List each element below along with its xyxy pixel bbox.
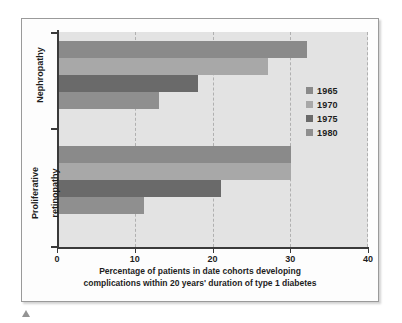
x-tick-40	[368, 247, 369, 253]
gridline-40	[367, 32, 368, 247]
x-tick-label-30: 30	[285, 254, 295, 264]
bar-nephropathy-1975	[58, 75, 198, 92]
legend-item-1965: 1965	[306, 84, 338, 97]
category-label-nephropathy: Nephropathy	[35, 30, 45, 120]
x-tick-20	[213, 247, 214, 253]
x-tick-0	[57, 247, 58, 253]
x-tick-label-40: 40	[363, 254, 373, 264]
triangle-marker-icon	[22, 310, 30, 317]
legend-label-1980: 1980	[317, 128, 338, 138]
bar-nephropathy-1970	[58, 58, 268, 75]
legend-label-1975: 1975	[317, 114, 338, 124]
legend: 1965 1970 1975 1980	[306, 84, 338, 140]
gridline-30	[290, 32, 291, 247]
category-label-retinopathy: Proliferative retinopathy	[20, 148, 60, 238]
legend-swatch-1980	[306, 129, 313, 136]
bar-retinopathy-1980	[58, 197, 144, 214]
legend-item-1975: 1975	[306, 112, 338, 125]
x-axis-caption: Percentage of patients in date cohorts d…	[30, 266, 370, 289]
x-axis-caption-line2: complications within 20 years' duration …	[30, 278, 370, 290]
legend-swatch-1970	[306, 101, 313, 108]
y-tick-top	[51, 32, 58, 34]
category-label-retinopathy-line1: Proliferative	[30, 167, 40, 219]
legend-swatch-1975	[306, 115, 313, 122]
x-tick-label-20: 20	[207, 254, 217, 264]
legend-item-1980: 1980	[306, 126, 338, 139]
bar-nephropathy-1965	[58, 41, 307, 58]
bar-retinopathy-1965	[58, 146, 291, 163]
x-tick-label-0: 0	[54, 254, 59, 264]
legend-swatch-1965	[306, 87, 313, 94]
x-tick-label-10: 10	[130, 254, 140, 264]
legend-item-1970: 1970	[306, 98, 338, 111]
bar-retinopathy-1975	[58, 180, 221, 197]
y-tick-middle	[51, 128, 58, 130]
legend-label-1970: 1970	[317, 100, 338, 110]
x-axis-caption-line1: Percentage of patients in date cohorts d…	[30, 266, 370, 278]
legend-label-1965: 1965	[317, 86, 338, 96]
category-label-retinopathy-line2: retinopathy	[50, 169, 60, 218]
x-tick-30	[290, 247, 291, 253]
bar-retinopathy-1970	[58, 163, 291, 180]
x-tick-10	[135, 247, 136, 253]
bar-nephropathy-1980	[58, 92, 159, 109]
